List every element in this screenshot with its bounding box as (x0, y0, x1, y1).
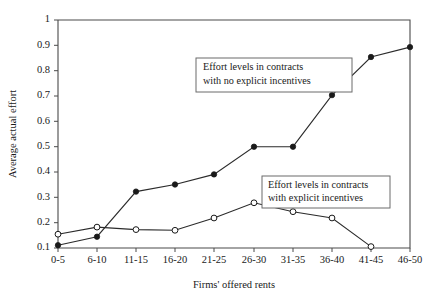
data-point (368, 244, 374, 250)
data-point (407, 44, 412, 49)
data-point (251, 144, 256, 149)
data-point (94, 234, 99, 239)
data-point (172, 227, 178, 233)
ytick-label-5: 0.6 (37, 115, 50, 126)
ytick-label-4: 0.5 (37, 140, 50, 151)
xtick-label-8: 41-45 (359, 254, 384, 265)
ytick-label-1: 0.2 (37, 216, 50, 227)
data-point (133, 227, 139, 233)
xtick-label-7: 36-40 (320, 254, 345, 265)
xtick-label-2: 11-15 (124, 254, 148, 265)
xtick-label-1: 6-10 (87, 254, 106, 265)
xtick-label-5: 26-30 (242, 254, 267, 265)
data-point (290, 144, 295, 149)
xtick-label-3: 16-20 (163, 254, 188, 265)
ytick-label-3: 0.4 (37, 165, 51, 176)
data-point (55, 231, 61, 237)
data-point (329, 215, 335, 221)
chart-container: 0.1 0.2 0.3 0.4 0.5 0.6 0.7 0.8 0.9 1 0-… (0, 0, 432, 305)
xtick-label-6: 31-35 (281, 254, 306, 265)
data-point (133, 189, 138, 194)
data-point (329, 92, 334, 97)
x-axis-ticks (58, 248, 410, 252)
y-axis-title: Average actual effort (7, 90, 18, 178)
plot-frame (58, 20, 410, 248)
ytick-label-8: 0.9 (37, 39, 50, 50)
annotation-line-2: with no explicit incentives (203, 75, 311, 86)
data-point (55, 243, 60, 248)
data-point (211, 172, 216, 177)
data-point (251, 200, 257, 206)
ytick-label-9: 1 (45, 13, 50, 24)
annotation-no-incentives: Effort levels in contracts with no expli… (196, 58, 352, 92)
xtick-label-0: 0-5 (51, 254, 65, 265)
xtick-label-9: 46-50 (398, 254, 423, 265)
ytick-label-7: 0.8 (37, 64, 50, 75)
xtick-label-4: 21-25 (202, 254, 227, 265)
data-point (368, 54, 373, 59)
data-point (211, 215, 217, 221)
data-point (172, 182, 177, 187)
annotation-explicit-incentives: Effort levels in contracts with explicit… (262, 176, 390, 208)
data-point (290, 209, 296, 215)
data-point (94, 224, 100, 230)
ytick-label-6: 0.7 (37, 89, 50, 100)
ytick-label-2: 0.3 (37, 191, 50, 202)
ytick-label-0: 0.1 (37, 241, 50, 252)
effort-vs-rent-line-chart: 0.1 0.2 0.3 0.4 0.5 0.6 0.7 0.8 0.9 1 0-… (0, 0, 432, 305)
annotation-line-1: Effort levels in contracts (203, 61, 303, 72)
annotation-line-2: with explicit incentives (268, 192, 363, 203)
y-axis-ticks (54, 20, 58, 248)
x-axis-title: Firms' offered rents (193, 279, 275, 290)
annotation-line-1: Effort levels in contracts (268, 179, 368, 190)
series-line-explicit-incentives (58, 203, 371, 247)
